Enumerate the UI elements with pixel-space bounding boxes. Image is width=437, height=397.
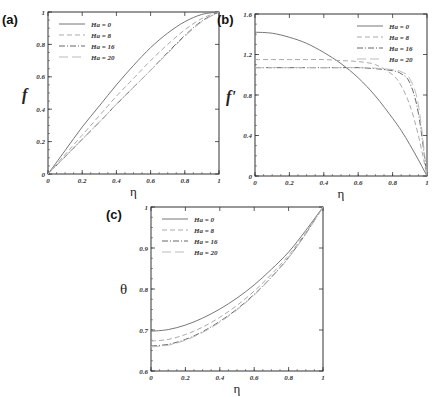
series-line — [48, 12, 219, 174]
legend-entry: Ha = 20 — [193, 249, 218, 257]
series-line — [48, 12, 219, 174]
x-tick-label: 1 — [217, 177, 221, 185]
y-tick-label: 0.8 — [243, 92, 252, 100]
series-group — [255, 32, 427, 176]
x-tick-label: 0.6 — [250, 374, 259, 382]
x-tick-label: 1 — [425, 179, 429, 187]
series-line — [255, 68, 427, 176]
y-tick-label: 1 — [42, 9, 46, 17]
x-tick-label: 0.4 — [215, 374, 224, 382]
chart-panel-b: (b)00.20.40.60.8100.40.81.21.6ηf'Ha = 0H… — [217, 11, 429, 202]
legend-entry: Ha = 16 — [193, 238, 218, 246]
legend-entry: Ha = 8 — [388, 34, 409, 42]
y-tick-label: 0.7 — [139, 327, 148, 335]
y-tick-label: 0.6 — [139, 368, 148, 376]
y-tick-label: 0.6 — [36, 73, 45, 81]
y-tick-label: 0.2 — [36, 138, 45, 146]
x-tick-label: 0.8 — [388, 179, 397, 187]
x-axis-label: η — [234, 381, 241, 396]
y-tick-label: 0 — [42, 171, 46, 179]
x-tick-label: 0.4 — [112, 177, 121, 185]
legend-entry: Ha = 8 — [90, 32, 111, 40]
x-tick-label: 0.2 — [78, 177, 87, 185]
y-tick-label: 1.6 — [243, 11, 252, 19]
series-line — [48, 12, 219, 174]
legend-entry: Ha = 0 — [193, 216, 214, 224]
x-tick-label: 0.6 — [354, 179, 363, 187]
y-axis-label: f — [22, 86, 29, 104]
plot-frame — [151, 207, 323, 371]
x-tick-label: 0 — [253, 179, 257, 187]
y-axis-label: θ — [120, 281, 127, 297]
x-tick-label: 0 — [46, 177, 50, 185]
x-tick-label: 0.8 — [284, 374, 293, 382]
panel-label: (a) — [2, 12, 18, 27]
panel-label: (c) — [106, 207, 122, 222]
figure: (a)00.20.40.60.8100.20.40.60.81ηfHa = 0H… — [0, 0, 437, 397]
series-line — [151, 207, 323, 331]
legend-entry: Ha = 20 — [90, 54, 115, 62]
x-axis-label: η — [338, 186, 345, 201]
chart-panel-c: (c)00.20.40.60.810.60.70.80.91ηθHa = 0Ha… — [106, 204, 325, 397]
legend-entry: Ha = 0 — [388, 23, 409, 31]
y-tick-label: 0.9 — [139, 245, 148, 253]
y-tick-label: 1 — [145, 204, 149, 212]
y-tick-label: 0 — [249, 173, 253, 181]
series-line — [255, 32, 427, 176]
legend-entry: Ha = 16 — [90, 43, 115, 51]
x-tick-label: 1 — [321, 374, 325, 382]
series-line — [151, 207, 323, 346]
y-tick-label: 0.4 — [243, 132, 252, 140]
x-axis-label: η — [130, 184, 137, 199]
y-tick-label: 0.4 — [36, 106, 45, 114]
series-line — [48, 12, 219, 174]
x-tick-label: 0.8 — [180, 177, 189, 185]
legend-entry: Ha = 20 — [388, 56, 413, 64]
series-group — [151, 207, 323, 347]
x-tick-label: 0.2 — [181, 374, 190, 382]
series-line — [151, 207, 323, 347]
legend-entry: Ha = 16 — [388, 45, 413, 53]
x-tick-label: 0 — [149, 374, 153, 382]
y-axis-label: f' — [226, 88, 236, 106]
x-tick-label: 0.2 — [285, 179, 294, 187]
y-tick-label: 0.8 — [36, 41, 45, 49]
series-group — [48, 12, 219, 174]
series-line — [255, 59, 427, 176]
chart-panel-a: (a)00.20.40.60.8100.20.40.60.81ηfHa = 0H… — [2, 9, 221, 200]
plot-frame — [48, 12, 219, 174]
y-tick-label: 0.8 — [139, 286, 148, 294]
series-line — [255, 68, 427, 176]
x-tick-label: 0.6 — [146, 177, 155, 185]
legend-entry: Ha = 0 — [90, 21, 111, 29]
x-tick-label: 0.4 — [319, 179, 328, 187]
y-tick-label: 1.2 — [243, 51, 252, 59]
legend-entry: Ha = 8 — [193, 227, 214, 235]
panel-label: (b) — [217, 12, 234, 27]
series-line — [151, 207, 323, 341]
